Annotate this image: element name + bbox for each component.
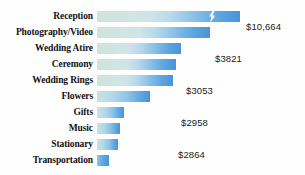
chart-row: Stationary $871	[0, 138, 305, 151]
bar-stationary[interactable]	[97, 139, 118, 150]
bar-fill	[97, 139, 118, 150]
bar-transportation[interactable]	[97, 155, 109, 166]
bar-music[interactable]	[97, 123, 120, 134]
category-label-wedding-atire: Wedding Atire	[0, 42, 93, 55]
category-label-photography-video: Photography/Video	[0, 26, 93, 39]
category-label-flowers: Flowers	[0, 90, 93, 103]
axis-break-icon	[208, 10, 217, 23]
bar-gifts[interactable]	[97, 107, 124, 118]
bar-fill	[97, 107, 124, 118]
chart-row: Photography/Video $3821	[0, 26, 305, 39]
bar-fill	[97, 27, 210, 38]
bar-fill	[97, 123, 120, 134]
chart-row: Wedding Atire $3053	[0, 42, 305, 55]
category-label-transportation: Transportation	[0, 154, 93, 167]
category-label-ceremony: Ceremony	[0, 58, 93, 71]
chart-row: Transportation $458	[0, 154, 305, 167]
bar-fill	[97, 155, 109, 166]
bar-fill	[97, 91, 150, 102]
chart-row: Gifts $1080	[0, 106, 305, 119]
bar-fill	[97, 59, 176, 70]
chart-row: Reception $10,664	[0, 10, 305, 23]
bar-wedding-atire[interactable]	[97, 43, 181, 54]
category-label-gifts: Gifts	[0, 106, 93, 119]
category-label-wedding-rings: Wedding Rings	[0, 74, 93, 87]
chart-row: Wedding Rings $2864	[0, 74, 305, 87]
bar-photography-video[interactable]	[97, 27, 210, 38]
bar-reception[interactable]	[97, 11, 240, 22]
chart-row: Ceremony $2958	[0, 58, 305, 71]
bar-fill	[97, 75, 173, 86]
chart-row: Flowers $1825	[0, 90, 305, 103]
chart-row: Music $946	[0, 122, 305, 135]
horizontal-bar-chart: Reception $10,664 Photography/Video $382…	[0, 0, 305, 175]
bar-wedding-rings[interactable]	[97, 75, 173, 86]
bar-fill	[97, 43, 181, 54]
bar-ceremony[interactable]	[97, 59, 176, 70]
category-label-music: Music	[0, 122, 93, 135]
bar-fill	[97, 11, 240, 22]
bar-flowers[interactable]	[97, 91, 150, 102]
category-label-reception: Reception	[0, 10, 93, 23]
category-label-stationary: Stationary	[0, 138, 93, 151]
